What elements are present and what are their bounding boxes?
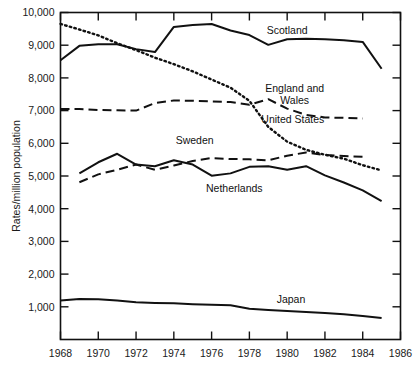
series-label-england-and-wales-line2: Wales — [280, 94, 309, 106]
series-label-netherlands: Netherlands — [206, 182, 263, 194]
plot-frame — [61, 13, 401, 340]
x-axis-tick-label: 1978 — [238, 347, 262, 359]
series-label-sweden: Sweden — [176, 134, 214, 146]
x-axis-tick-label: 1976 — [200, 347, 224, 359]
y-axis-tick-label: 3,000 — [28, 235, 54, 247]
y-axis-tick-label: 8,000 — [28, 72, 54, 84]
x-axis-tick-label: 1984 — [351, 347, 375, 359]
y-axis-tick-label: 6,000 — [28, 137, 54, 149]
series-label-england-and-wales: England and — [265, 82, 324, 94]
y-axis-tick-label: 4,000 — [28, 203, 54, 215]
x-axis-tick-label: 1980 — [275, 347, 299, 359]
series-line-scotland — [61, 24, 382, 69]
y-axis-tick-label: 7,000 — [28, 104, 54, 116]
x-axis-tick-label: 1986 — [389, 347, 413, 359]
series-label-japan: Japan — [277, 293, 306, 305]
x-axis-tick-label: 1970 — [87, 347, 111, 359]
x-axis-tick-label: 1968 — [49, 347, 73, 359]
x-axis-tick-label: 1982 — [313, 347, 337, 359]
y-axis-tick-label: 9,000 — [28, 39, 54, 51]
series-line-united-states — [61, 24, 382, 171]
chart-container: 1,0002,0003,0004,0005,0006,0007,0008,000… — [0, 0, 420, 366]
y-axis-tick-label: 2,000 — [28, 268, 54, 280]
series-line-japan — [61, 299, 382, 318]
y-axis-title: Rates/million population — [10, 120, 22, 232]
series-label-scotland: Scotland — [267, 24, 308, 36]
x-axis-tick-label: 1974 — [162, 347, 186, 359]
x-axis-tick-label: 1972 — [124, 347, 148, 359]
series-label-united-states: United States — [261, 113, 324, 125]
y-axis-tick-label: 1,000 — [28, 301, 54, 313]
y-axis-tick-label: 5,000 — [28, 170, 54, 182]
y-axis-tick-label: 10,000 — [22, 6, 54, 18]
line-chart: 1,0002,0003,0004,0005,0006,0007,0008,000… — [0, 0, 420, 366]
